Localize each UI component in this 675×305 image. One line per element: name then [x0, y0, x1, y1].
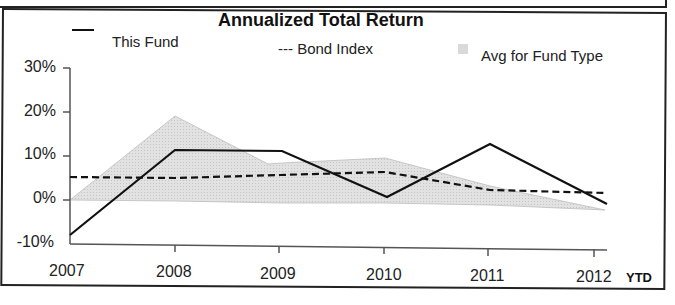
- x-tick-label: 2007: [49, 262, 85, 280]
- x-tick-label: 2009: [260, 265, 296, 283]
- x-tick-label: 2011: [470, 267, 504, 285]
- x-tick-label: 2008: [156, 263, 192, 281]
- ytd-label: YTD: [626, 270, 652, 285]
- x-tick-label: 2010: [366, 266, 402, 284]
- x-axis: [70, 244, 607, 250]
- plot-area: [0, 0, 675, 305]
- x-tick-label: 2012: [576, 268, 612, 286]
